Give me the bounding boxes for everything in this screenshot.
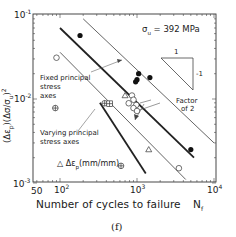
- figure: 10-1 10-2 10-3 50 102 103 104 Number of …: [0, 0, 236, 237]
- xtick-label-50: 50: [31, 187, 42, 196]
- open-circle-marker: [126, 100, 132, 106]
- open-circle-marker: [134, 108, 140, 114]
- sigma-u-annotation: σu = 392 MPa: [142, 25, 200, 36]
- filled-circle-marker: [136, 71, 141, 76]
- fit-line: [83, 19, 214, 143]
- figure-caption: (f): [111, 222, 123, 232]
- fixed-axes-label: Fixed principal stress axes: [40, 74, 91, 101]
- ytick-label-1e-1: 10-1: [14, 9, 31, 20]
- x-axis-symbol: Nf: [193, 199, 203, 212]
- data-points: [53, 33, 194, 171]
- filled-circle-marker: [133, 79, 138, 84]
- delta-ep-legend: △ Δεp(mm/mm): [57, 160, 119, 170]
- varying-axes-label: Varying principal stress axes: [40, 129, 99, 147]
- factor-arrow-up: [140, 100, 151, 103]
- slope-run-label: 1: [174, 49, 178, 56]
- ytick-label-1e-2: 10-2: [14, 93, 31, 104]
- filled-circle-marker: [77, 33, 82, 38]
- varying-leader-line: [78, 109, 95, 131]
- filled-circle-marker: [147, 75, 152, 80]
- filled-circle-marker: [188, 147, 193, 152]
- slope-triangle: [161, 58, 193, 90]
- ytick-label-1e-3: 10-3: [13, 178, 30, 189]
- x-axis-label: Number of cycles to failure: [36, 199, 181, 210]
- y-axis-label: (Δεp)(Δσ/σu)2: [1, 88, 14, 143]
- arrowhead: [117, 59, 122, 63]
- arrowhead: [134, 114, 139, 120]
- factor-of-2-label: Factor of 2: [176, 97, 197, 113]
- open-circle-marker: [176, 165, 182, 171]
- xtick-label-1e2: 102: [54, 184, 69, 195]
- open-circle-marker: [54, 55, 60, 61]
- xtick-label-1e4: 104: [207, 184, 222, 195]
- slope-rise-label: -1: [196, 71, 203, 78]
- open-triangle-marker: [146, 147, 152, 152]
- open-circle-marker: [131, 97, 137, 103]
- xtick-label-1e3: 103: [130, 184, 145, 195]
